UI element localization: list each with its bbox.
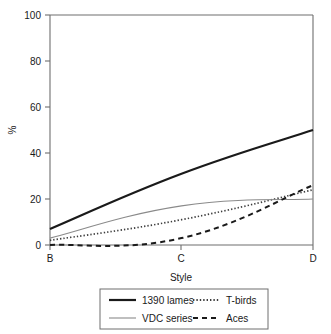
y-tick-label-40: 40 (30, 148, 42, 159)
legend-label-t-birds: T-birds (226, 295, 257, 306)
legend-label-1390-lames: 1390 lames (142, 295, 194, 306)
y-tick-label-80: 80 (30, 56, 42, 67)
y-tick-label-0: 0 (35, 240, 41, 251)
y-tick-label-20: 20 (30, 194, 42, 205)
y-tick-label-100: 100 (24, 10, 41, 21)
y-tick-label-60: 60 (30, 102, 42, 113)
line-chart-figure: 0 20 40 60 80 100 % B C D Style 1390 lam… (0, 0, 331, 334)
y-axis-title: % (7, 125, 18, 134)
legend-label-vdc-series: VDC series (142, 313, 193, 324)
legend-label-aces: Aces (226, 313, 248, 324)
x-tick-label-b: B (47, 253, 54, 264)
chart-legend: 1390 lames T-birds VDC series Aces (100, 289, 268, 329)
x-axis-title: Style (170, 272, 193, 283)
x-tick-label-c: C (177, 253, 184, 264)
x-tick-label-d: D (309, 253, 316, 264)
